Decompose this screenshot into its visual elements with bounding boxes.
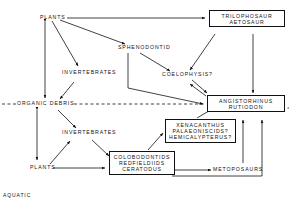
xenacanthus-row-1: XENACANTHUS <box>169 122 232 128</box>
node-colobodontids-group[interactable]: COLOBODONTIDS REDFIELDIIDS CERATODUS <box>109 151 175 175</box>
node-angistorhinus-rutiodon[interactable]: ANGISTORHINUS RUTIODON <box>207 95 285 112</box>
edge-organic-debris-invertebrates-lower <box>58 110 76 128</box>
node-coelophysis[interactable]: COELOPHYSIS? <box>162 72 213 77</box>
angistorhinus-row-1: ANGISTORHINUS <box>211 98 281 104</box>
edge-plants-sphenodontid <box>60 20 125 44</box>
node-xenacanthus-group[interactable]: XENACANTHUS PALAEONISCIDS? HEMICALYPTERU… <box>165 119 236 143</box>
edge-sphenodontid-angistorhinus-2 <box>128 88 203 104</box>
node-invertebrates-upper[interactable]: INVERTEBRATES <box>62 70 116 75</box>
food-web-diagram: PLANTS SPHENODONTID INVERTEBRATES ORGANI… <box>0 0 289 201</box>
angistorhinus-row-2: RUTIODON <box>211 104 281 110</box>
node-invertebrates-lower[interactable]: INVERTEBRATES <box>62 130 116 135</box>
colobodontids-row-2: REDFIELDIIDS <box>113 160 171 166</box>
edge-invertebrates-upper-organic-debris <box>60 82 74 99</box>
edge-sphenodontid-coelophysis <box>140 53 170 71</box>
edge-trilophosaur-coelophysis <box>190 34 215 70</box>
edge-invertebrates-lower-colobodontids <box>92 140 109 156</box>
xenacanthus-row-2: PALAEONISCIDS? <box>169 128 232 134</box>
xenacanthus-row-3: HEMICALYPTERUS? <box>169 134 232 140</box>
node-trilophosaur-aetosaur[interactable]: TRILOPHOSAUR AETOSAUR <box>209 10 285 27</box>
colobodontids-row-3: CERATODUS <box>113 166 171 172</box>
node-organic-debris[interactable]: ORGANIC DEBRIS <box>17 101 75 106</box>
node-metoposaurs[interactable]: METOPOSAURS <box>213 167 263 172</box>
edge-plants-invertebrates-upper <box>52 21 78 66</box>
node-plants-bottom[interactable]: PLANTS <box>30 165 56 170</box>
node-plants-top[interactable]: PLANTS <box>40 15 66 20</box>
node-sphenodontid[interactable]: SPHENODONTID <box>118 45 171 50</box>
aquatic-caption: AQUATIC <box>3 192 31 198</box>
colobodontids-row-1: COLOBODONTIDS <box>113 154 171 160</box>
trilophosaur-row-2: AETOSAUR <box>213 19 281 25</box>
edge-plants-bottom-invertebrates-lower <box>50 141 70 164</box>
trilophosaur-row-1: TRILOPHOSAUR <box>213 13 281 19</box>
edge-colobodontids-xenacanthus <box>148 133 163 150</box>
